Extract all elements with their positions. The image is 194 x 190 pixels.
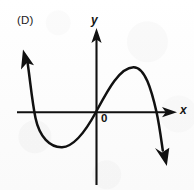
origin-label: 0 [101,113,107,125]
x-axis-label: x [180,104,187,116]
y-axis-label: y [91,14,98,26]
graph-figure [0,0,194,190]
cubic-curve-path [28,62,163,151]
cubic-curve [21,50,169,167]
choice-label: (D) [17,15,34,27]
figure-panel: (D) y x 0 [0,0,194,190]
